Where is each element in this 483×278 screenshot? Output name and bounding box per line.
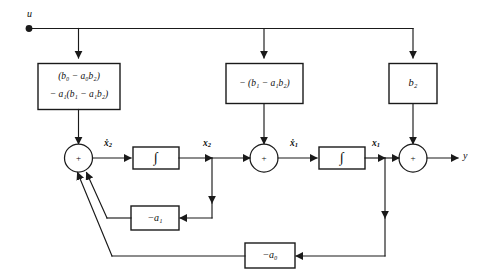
wire-a1-to-summer2 [87,173,108,219]
summer-1-sign: + [254,153,274,163]
summer-out-sign: + [403,153,423,163]
signal-label-x1: x1 [372,138,380,149]
block-feedback-a0-text: −a₀ [245,249,295,260]
block-feedforward-b2-text: b₂ [389,77,437,88]
b1-text: − (b₁ − a₁b₂) [239,78,289,88]
b2-text: b₂ [409,77,418,88]
block-feedforward-b1-text: − (b₁ − a₁b₂) [226,78,303,88]
b0-line2-text: − a₁(b₁ − a₁b₂) [50,89,108,99]
signal-label-xdot1: ẋ1 [290,138,298,149]
integrator-1-glyph: ∫ [319,147,365,169]
block-feedforward-b0-line1: (b₀ − a₀b₂) [38,71,120,81]
a0-text: −a₀ [262,249,277,260]
signal-label-xdot2: ẋ2 [104,138,112,149]
input-label: u [27,8,32,19]
block-feedforward-b0-line2: − a₁(b₁ − a₁b₂) [38,89,120,99]
summer-2-sign: + [69,153,89,163]
block-feedback-a1-text: −a₁ [131,212,179,223]
diagram-graphics [0,0,483,278]
block-diagram-canvas: u y (b₀ − a₀b₂) − a₁(b₁ − a₁b₂) − (b₁ − … [0,0,483,278]
a1-text: −a₁ [147,212,162,223]
integrator-2-glyph: ∫ [133,147,179,169]
wire-a0-to-summer2 [78,173,113,257]
signal-label-x2: x2 [203,138,211,149]
output-label: y [463,150,467,161]
b0-line1-text: (b₀ − a₀b₂) [58,71,100,81]
